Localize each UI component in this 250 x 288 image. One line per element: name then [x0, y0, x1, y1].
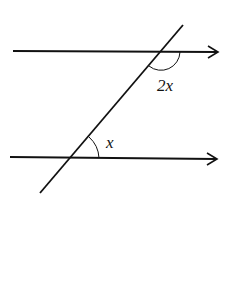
- bottom-parallel-line: [10, 157, 216, 159]
- transversal-line: [40, 25, 183, 193]
- parallel-lines-diagram: 2x x: [0, 0, 250, 288]
- top-parallel-line: [13, 51, 217, 52]
- angle-label-x: x: [105, 133, 114, 152]
- angle-arc-2x: [149, 52, 180, 70]
- angle-arc-x: [89, 137, 99, 158]
- angle-label-2x: 2x: [157, 76, 174, 95]
- diagram-canvas: 2x x: [0, 0, 250, 288]
